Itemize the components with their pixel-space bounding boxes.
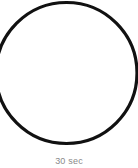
circle-svg xyxy=(0,0,138,150)
circle-outline-icon xyxy=(0,3,137,144)
figure-caption: 30 sec xyxy=(0,156,138,167)
circle-diagram xyxy=(0,0,138,150)
figure-panel: 30 sec xyxy=(0,0,138,168)
